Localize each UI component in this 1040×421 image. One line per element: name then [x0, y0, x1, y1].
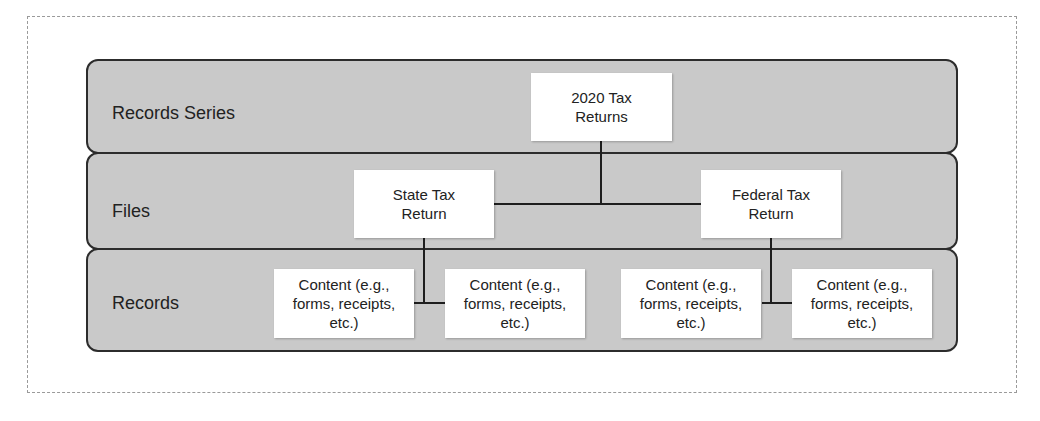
connector-federal-contents — [762, 302, 792, 304]
level-label-records: Records — [112, 293, 179, 314]
level-band-records-series: Records Series — [86, 59, 958, 154]
level-label-files: Files — [112, 201, 150, 222]
node-state-tax-return: State Tax Return — [354, 170, 494, 238]
node-content-2: Content (e.g., forms, receipts, etc.) — [445, 269, 585, 338]
node-content-3: Content (e.g., forms, receipts, etc.) — [621, 269, 761, 338]
connector-state-federal — [494, 203, 701, 205]
node-content-1: Content (e.g., forms, receipts, etc.) — [274, 269, 414, 338]
node-federal-tax-return: Federal Tax Return — [701, 170, 841, 238]
node-2020-tax-returns: 2020 Tax Returns — [531, 73, 672, 141]
node-content-4: Content (e.g., forms, receipts, etc.) — [792, 269, 932, 338]
connector-root-down — [600, 141, 602, 205]
level-label-records-series: Records Series — [112, 103, 235, 124]
connector-state-contents — [414, 302, 445, 304]
connector-federal-down — [770, 238, 772, 304]
connector-state-down — [423, 238, 425, 304]
